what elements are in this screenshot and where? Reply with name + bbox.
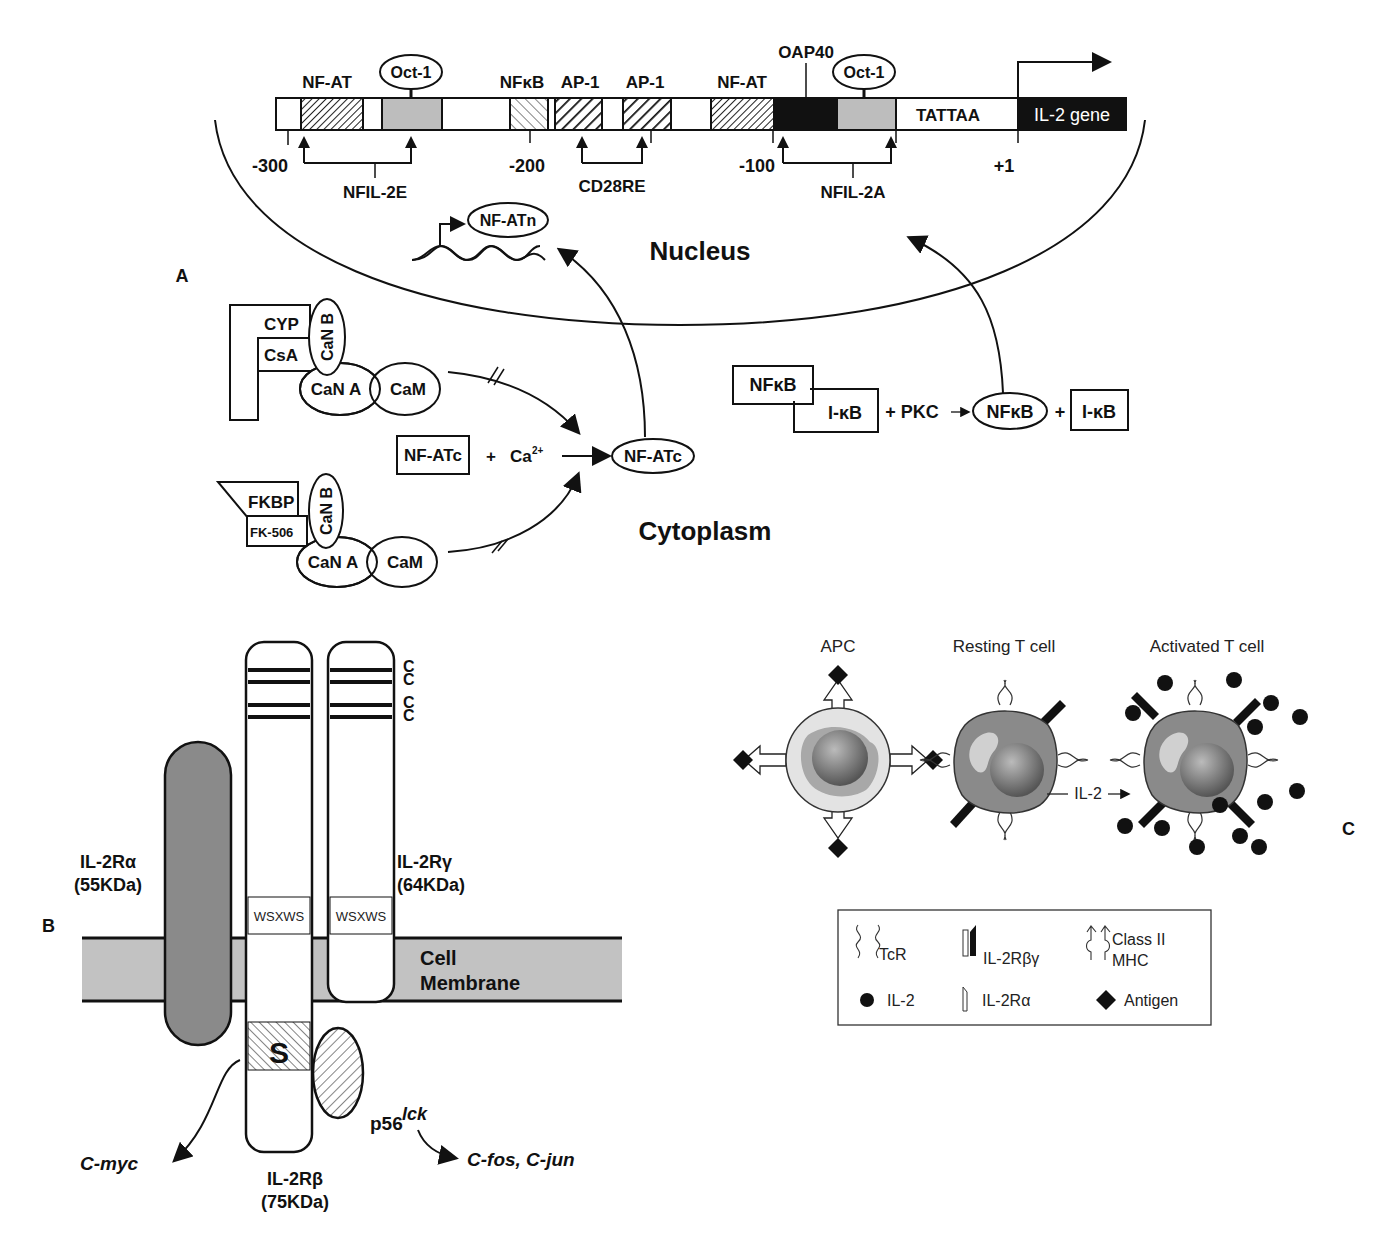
membrane-label-2: Membrane [420,972,520,994]
ap1-label-2: AP-1 [626,73,665,92]
nfatn-dna-group: NF-ATn [412,203,548,260]
promoter-nfat-site-2 [711,98,774,130]
nfatn-label: NF-ATn [480,212,537,229]
inhibited-arrow-top [448,372,578,432]
fk506-complex: FKBP FK-506 CaN B CaN A CaM [218,474,437,587]
promoter-oct1-site-2 [837,98,896,130]
il2-arrow-label: IL-2 [1074,785,1102,802]
oct1-label-2: Oct-1 [844,64,885,81]
il2ra-label: IL-2Rα [80,852,136,872]
promoter-nfat-site-1 [301,98,363,130]
il2rg-label: IL-2Rγ [397,852,452,872]
il2-gene-label: IL-2 gene [1034,105,1110,125]
panel-c-label: C [1342,819,1355,839]
resting-t-cell-label: Resting T cell [953,637,1055,656]
nfkb-complex-label: NFκB [749,375,796,395]
il2rb-label: IL-2Rβ [267,1169,323,1189]
oct1-label-1: Oct-1 [391,64,432,81]
csa-label: CsA [264,346,298,365]
il2rg-chain [328,642,394,1002]
nfkb-site-label: NFκB [500,73,544,92]
pkc-label: + PKC [885,402,939,422]
tattaa-label: TATTAA [916,106,980,125]
s-region-label: S [269,1036,289,1069]
nucleus-membrane-arc [215,120,1145,325]
nfatc-product-label: NF-ATc [624,447,682,466]
fkbp-label: FKBP [248,493,294,512]
panel-c: APC Resting T cell Activated T cell [733,637,1355,1025]
nfatc-translocation-arrow [560,250,645,437]
il2ra-icon [963,987,967,1011]
position-minus-300: -300 [252,156,288,176]
cfos-cjun-label: C-fos, C-jun [467,1149,575,1170]
cam-label-2: CaM [387,553,423,572]
lck-superscript: lck [402,1104,428,1124]
cmyc-label: C-myc [80,1153,139,1174]
promoter-ap1-site-1 [555,98,602,130]
cyp-label: CYP [264,315,299,334]
legend-il2-label: IL-2 [887,992,915,1009]
il2-promoter: TATTAA IL-2 gene [276,98,1126,130]
wsxws-motif-gamma: WSXWS [336,909,387,924]
cytoplasm-label: Cytoplasm [639,516,772,546]
legend-il2rbg-label: IL-2Rβγ [983,950,1039,967]
legend-tcr-label: TcR [879,946,907,963]
plus-sign: + [486,447,496,466]
activated-t-cell [1110,672,1308,855]
nfkb-free-label: NFκB [986,402,1033,422]
fk506-label: FK-506 [250,525,293,540]
p56lck-kinase [313,1028,363,1118]
position-minus-200: -200 [509,156,545,176]
nfil2a-label: NFIL-2A [820,183,885,202]
nfkb-translocation-arrow [910,238,1003,393]
ikb-complex-label: I-κB [828,403,862,423]
panel-a: TATTAA IL-2 gene NF-AT Oct-1 NFκB AP-1 A… [176,43,1146,587]
canb-label-2: CaN B [318,487,335,535]
ap1-label-1: AP-1 [561,73,600,92]
nfatc-reactant-label: NF-ATc [404,446,462,465]
canb-label: CaN B [319,313,336,361]
figure-canvas: TATTAA IL-2 gene NF-AT Oct-1 NFκB AP-1 A… [0,0,1379,1240]
apc-cell [733,665,943,858]
plus-sign-2: + [1055,402,1066,422]
panel-a-label: A [176,266,189,286]
promoter-oap40-site [774,98,837,130]
nfat-label-1: NF-AT [302,73,352,92]
nucleus-label: Nucleus [649,236,750,266]
legend-antigen-label: Antigen [1124,992,1178,1009]
legend-il2ra-label: IL-2Rα [982,992,1030,1009]
panel-b: Cell Membrane IL-2Rα (55KDa) S WSXWS WSX… [42,642,622,1212]
calcium-charge: 2+ [532,445,544,456]
membrane-label-1: Cell [420,947,457,969]
position-plus-1: +1 [994,156,1015,176]
cysteine-label: C [403,671,415,688]
legend-mhc-label-2: MHC [1112,952,1148,969]
il2ra-chain [165,742,231,1045]
legend: TcR IL-2Rβγ Class II MHC IL-2 IL-2Rα Ant… [838,910,1211,1025]
cana-label: CaN A [311,380,361,399]
nfat-label-2: NF-AT [717,73,767,92]
cana-label-2: CaN A [308,553,358,572]
cmyc-signal-arrow [175,1060,240,1160]
oap40-label: OAP40 [778,43,834,62]
il2rg-mass: (64KDa) [397,875,465,895]
position-minus-100: -100 [739,156,775,176]
activated-t-cell-label: Activated T cell [1150,637,1265,656]
nfil2e-label: NFIL-2E [343,183,407,202]
apc-label: APC [821,637,856,656]
il2rb-mass: (75KDa) [261,1192,329,1212]
legend-mhc-label: Class II [1112,931,1165,948]
panel-b-label: B [42,916,55,936]
calcium-label: Ca [510,447,532,466]
cfos-signal-arrow [418,1130,455,1158]
resting-t-cell [920,680,1088,840]
wsxws-motif-beta: WSXWS [254,909,305,924]
cd28re-label: CD28RE [578,177,645,196]
p56-label: p56 [370,1113,403,1134]
il2-dot-icon [860,993,874,1007]
cyclosporin-complex: CYP CsA CaN B CaN A CaM [230,299,440,420]
promoter-oct1-site-1 [382,98,442,130]
il2ra-mass: (55KDa) [74,875,142,895]
inhibited-arrow-bottom [448,475,578,552]
promoter-nfkb-site [510,98,548,130]
